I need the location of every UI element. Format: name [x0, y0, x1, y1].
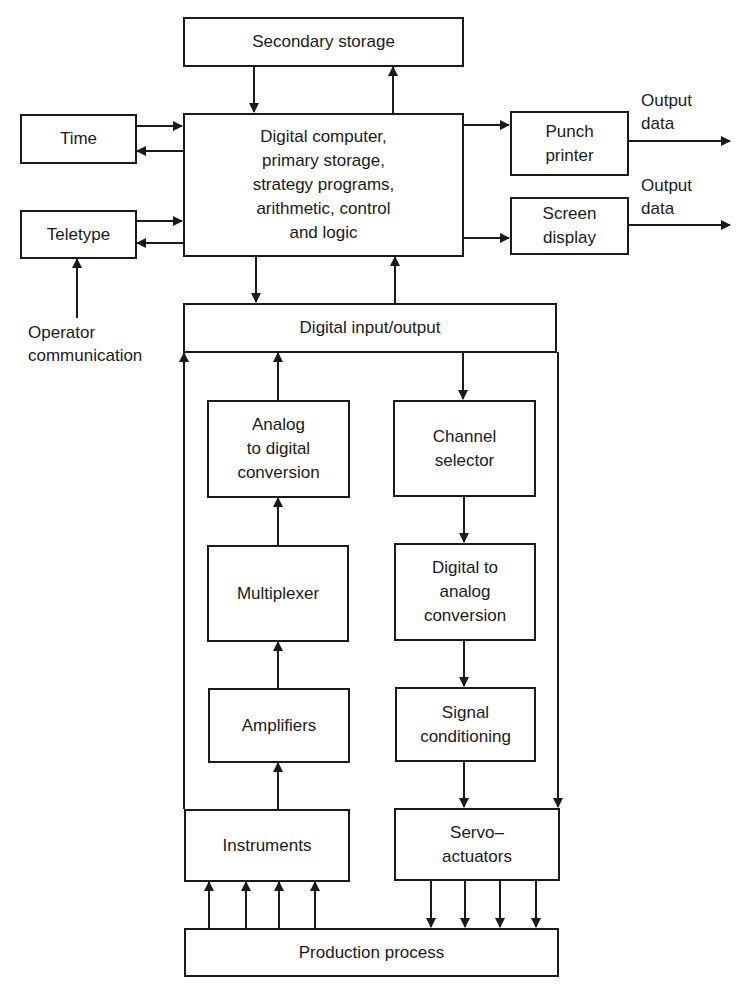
dac-box: Digital to analog conversion: [394, 543, 536, 641]
amplifiers-label: Amplifiers: [242, 714, 317, 738]
screen-display-box: Screen display: [510, 197, 629, 255]
secondary-storage-box: Secondary storage: [183, 17, 464, 67]
adc-box: Analog to digital conversion: [207, 400, 350, 498]
operator-communication-label: Operator communication: [28, 321, 142, 367]
digital-computer-box: Digital computer, primary storage, strat…: [183, 113, 464, 257]
instruments-label: Instruments: [223, 834, 312, 858]
channel-selector-label: Channel selector: [433, 425, 496, 473]
secondary-storage-label: Secondary storage: [252, 30, 395, 54]
instruments-box: Instruments: [184, 809, 350, 882]
servo-actuators-box: Servo– actuators: [394, 808, 560, 881]
time-box: Time: [20, 114, 137, 164]
channel-selector-box: Channel selector: [393, 400, 536, 497]
servo-actuators-label: Servo– actuators: [442, 821, 512, 869]
screen-display-label: Screen display: [543, 202, 597, 250]
output-data-label-1: Output data: [641, 89, 692, 135]
digital-computer-label: Digital computer, primary storage, strat…: [253, 125, 395, 245]
amplifiers-box: Amplifiers: [208, 688, 350, 763]
dac-label: Digital to analog conversion: [424, 556, 506, 628]
digital-io-label: Digital input/output: [300, 316, 441, 340]
punch-printer-label: Punch printer: [545, 120, 593, 168]
multiplexer-box: Multiplexer: [207, 545, 349, 642]
adc-label: Analog to digital conversion: [237, 413, 319, 485]
time-label: Time: [60, 127, 97, 151]
signal-conditioning-box: Signal conditioning: [395, 687, 536, 762]
teletype-label: Teletype: [47, 223, 110, 247]
signal-conditioning-label: Signal conditioning: [420, 701, 511, 749]
production-process-label: Production process: [299, 941, 445, 965]
punch-printer-box: Punch printer: [510, 111, 629, 176]
multiplexer-label: Multiplexer: [237, 582, 319, 606]
output-data-label-2: Output data: [641, 174, 692, 220]
production-process-box: Production process: [184, 928, 559, 977]
teletype-box: Teletype: [20, 210, 137, 259]
digital-io-box: Digital input/output: [183, 303, 557, 353]
